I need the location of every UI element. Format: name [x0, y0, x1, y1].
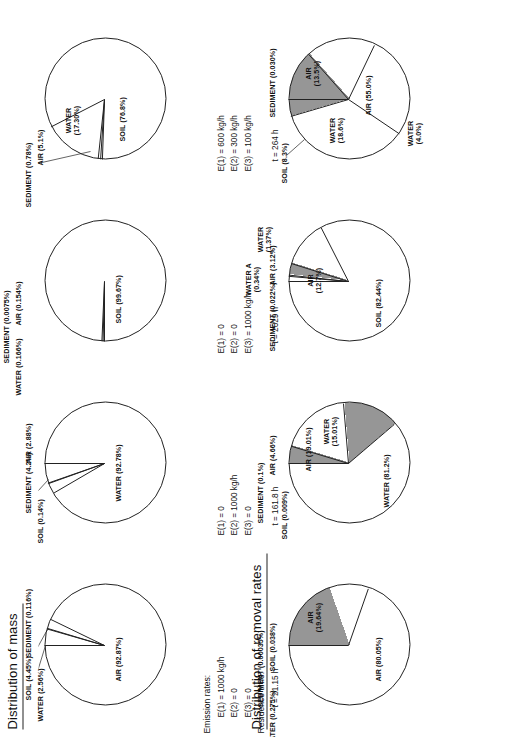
section-distribution-of-mass: Distribution of mass AIR (92. — [4, 0, 236, 737]
emission-e2-s2: E(2) = 1000 kg/h — [227, 381, 241, 551]
slice-label-air-reaction-removal-s2: AIR (19.01%) — [304, 427, 312, 471]
emission-e2-s1: E(2) = 0 — [227, 563, 241, 733]
figure-sheet: Distribution of mass AIR (92. — [0, 0, 514, 737]
slice-label-sediment-mass-s3: SEDIMENT (0.0075%) — [2, 290, 10, 363]
slice-label-water-mass-s3: WATER (0.166%) — [14, 338, 22, 395]
pie-chart-mass-s2: WATER (92.78%) SEDIMENT (4.2%) AIR (2.88… — [4, 391, 236, 551]
slice-label-air-advection-removal-s2: AIR (4.66%) — [268, 435, 276, 475]
slice-label-water-removal-s3: WATER (1.37%) — [256, 217, 273, 261]
slice-label-air-mass-s3: AIR (0.154%) — [14, 281, 22, 325]
pie-chart-mass-s1: AIR (92.87%) SOIL (4.45%) WATER (2.56%) … — [4, 573, 236, 733]
emission-e1-s2: E(1) = 0 — [214, 381, 228, 551]
pie-chart-mass-s4: SOIL (76.8%) WATER (17.30%) AIR (5.1%) S… — [4, 27, 236, 187]
emission-e2-s4: E(2) = 300 kg/h — [227, 17, 241, 187]
pie-chart-removal-s3: SOIL (82.44%) AIR (12.7%) AIR (3.12%) WA… — [248, 209, 510, 369]
slice-label-sediment-removal-s4: SEDIMENT (0.030%) — [268, 48, 276, 117]
pie-mass-s3-dividers — [38, 209, 188, 369]
slice-label-water-reaction-removal-s2: WATER (81.2%) — [382, 454, 390, 507]
pie-mass-s1-leaders — [38, 573, 188, 733]
slice-label-water-a-removal-s3: WATER A (0.34%) — [244, 257, 261, 301]
slice-label-water-removal-s1: WATER (0.275%) — [268, 690, 276, 737]
pie-chart-mass-s3: SOIL (99.67%) WATER (0.166%) AIR (0.154%… — [4, 209, 236, 369]
slice-label-water-advection-removal-s2: WATER (15.01%) — [322, 411, 339, 451]
slice-label-soil-mass-s1: SOIL (4.45%) — [24, 656, 32, 700]
slice-label-sediment-removal-s3: SEDIMENT (0.022%) — [268, 282, 276, 351]
emission-e2-s3: E(2) = 0 — [227, 199, 241, 369]
figure-canvas: Distribution of mass AIR (92. — [0, 0, 514, 737]
pie-chart-removal-s1: AIR (19.64%) AIR (80.05%) WATER (0.275%)… — [248, 573, 510, 733]
emission-e1-s4: E(1) = 600 kg/h — [214, 17, 228, 187]
pie-mass-s2-leaders — [38, 391, 188, 551]
slice-label-air-advection-removal-s1: AIR (19.64%) — [306, 597, 323, 637]
pie-removal-s4-leaders — [282, 27, 432, 187]
emission-e1-s1: E(1) = 1000 kg/h — [214, 563, 228, 733]
slice-label-sediment-mass-s1: SEDIMENT (0.116%) — [24, 588, 32, 657]
slice-label-air-mass-s2: AIR (2.88%) — [24, 423, 32, 463]
slice-label-soil-removal-s1: SOIL (0.038%) — [268, 623, 276, 671]
slice-label-sediment-removal-s1: SEDIMENT (0.00035%) — [256, 630, 264, 707]
slice-label-soil-removal-s2: SOIL (0.009%) — [280, 491, 288, 539]
emission-rates-header: Emission rates: — [200, 563, 214, 733]
slice-label-soil-mass-s3: SOIL (99.67%) — [114, 275, 122, 323]
slice-label-air-reaction-removal-s1: AIR (80.05%) — [374, 637, 382, 681]
pie-removal-s3-leaders — [282, 209, 432, 369]
section-distribution-of-removal-rates: Distribution of removal rates AIR (19.64… — [248, 0, 510, 737]
pie-mass-s4-leaders — [38, 27, 188, 187]
slice-label-sediment-removal-s2: SEDIMENT (0.1%) — [256, 462, 264, 523]
emission-e1-s3: E(1) = 0 — [214, 199, 228, 369]
slice-label-sediment-mass-s4: SEDIMENT (0.78%) — [24, 142, 32, 207]
pie-chart-removal-s2: WATER (15.01%) AIR (19.01%) WATER (81.2%… — [248, 391, 510, 551]
pie-removal-s1-dividers — [282, 573, 432, 733]
pie-chart-removal-s4: AIR (55.0%) WATER (18.6%) AIR (13.5%) SO… — [248, 27, 510, 187]
